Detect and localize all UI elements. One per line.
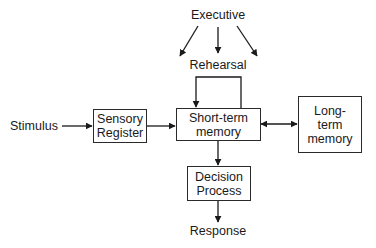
sensory-register-line2: Register (97, 126, 144, 140)
long-term-memory-line1: Long- (307, 104, 352, 118)
short-term-memory-line2: memory (189, 125, 248, 139)
decision-process-line2: Process (195, 184, 243, 198)
executive-left-arrow (180, 26, 198, 56)
response-label: Response (186, 224, 250, 238)
long-term-memory-line3: memory (307, 132, 352, 146)
sensory-register-box: Sensory Register (93, 109, 147, 143)
rehearsal-loop-arrow (196, 77, 241, 108)
short-term-memory-box: Short-term memory (176, 108, 261, 141)
short-term-memory-line1: Short-term (189, 111, 248, 125)
decision-process-line1: Decision (195, 170, 243, 184)
executive-label: Executive (188, 8, 248, 22)
decision-process-box: Decision Process (187, 166, 251, 201)
stimulus-label: Stimulus (10, 119, 62, 133)
long-term-memory-box: Long- term memory (298, 96, 362, 153)
executive-right-arrow (237, 26, 257, 56)
rehearsal-label: Rehearsal (188, 58, 248, 72)
sensory-register-line1: Sensory (97, 112, 144, 126)
long-term-memory-line2: term (307, 118, 352, 132)
